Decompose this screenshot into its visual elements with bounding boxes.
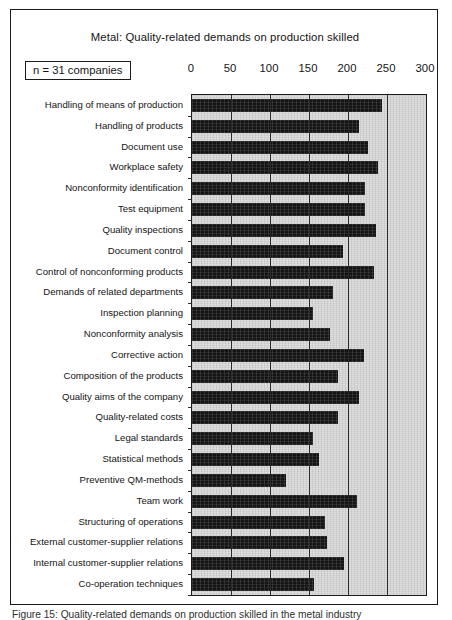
gridline xyxy=(309,95,310,595)
bar xyxy=(192,161,378,174)
category-axis-labels: Handling of means of productionHandling … xyxy=(11,94,187,594)
chart-title: Metal: Quality-related demands on produc… xyxy=(11,31,439,43)
category-label: Preventive QM-methods xyxy=(80,474,183,485)
bar xyxy=(192,349,364,362)
gridline xyxy=(348,95,349,595)
category-label: Nonconformity identification xyxy=(65,182,183,193)
x-axis-tick-label: 200 xyxy=(338,62,357,74)
category-label: Quality inspections xyxy=(102,224,183,235)
category-label: Test equipment xyxy=(118,203,183,214)
category-label: Composition of the products xyxy=(64,370,183,381)
gridline xyxy=(270,95,271,595)
category-label: Legal standards xyxy=(115,432,183,443)
bar xyxy=(192,495,357,508)
figure-frame: Metal: Quality-related demands on produc… xyxy=(10,9,438,605)
bar xyxy=(192,453,319,466)
category-label: Handling of products xyxy=(95,120,183,131)
category-label: Internal customer-supplier relations xyxy=(33,557,183,568)
category-label: Quality aims of the company xyxy=(62,391,183,402)
category-label: Corrective action xyxy=(111,349,183,360)
bar xyxy=(192,411,338,424)
bar xyxy=(192,120,359,133)
plot-area xyxy=(191,94,427,596)
bar xyxy=(192,536,327,549)
category-label: Inspection planning xyxy=(100,307,183,318)
bar xyxy=(192,370,338,383)
category-label: Nonconformity analysis xyxy=(84,328,183,339)
gridline xyxy=(231,95,232,595)
x-axis-tick-label: 150 xyxy=(299,62,318,74)
bar xyxy=(192,266,374,279)
bar xyxy=(192,432,313,445)
bar xyxy=(192,182,365,195)
category-label: Demands of related departments xyxy=(43,286,183,297)
bar xyxy=(192,286,333,299)
x-axis-tick-label: 50 xyxy=(224,62,237,74)
x-axis-tick-label: 100 xyxy=(260,62,279,74)
bar xyxy=(192,391,359,404)
category-label: Workplace safety xyxy=(110,161,183,172)
category-label: External customer-supplier relations xyxy=(30,536,183,547)
bar xyxy=(192,557,344,570)
bar xyxy=(192,203,365,216)
category-label: Team work xyxy=(137,495,183,506)
category-label: Co-operation techniques xyxy=(78,578,183,589)
figure-caption: Figure 15: Quality-related demands on pr… xyxy=(12,609,442,620)
category-label: Statistical methods xyxy=(102,453,183,464)
category-label: Document use xyxy=(121,141,183,152)
category-label: Structuring of operations xyxy=(78,516,183,527)
figure-root: Metal: Quality-related demands on produc… xyxy=(0,0,452,620)
x-axis-tick-label: 250 xyxy=(377,62,396,74)
bar xyxy=(192,245,343,258)
category-label: Quality-related costs xyxy=(96,411,183,422)
bar xyxy=(192,578,314,591)
gridline xyxy=(387,95,388,595)
bar xyxy=(192,99,382,112)
category-label: Document control xyxy=(108,245,183,256)
x-axis-tick-label: 0 xyxy=(188,62,194,74)
bar xyxy=(192,474,286,487)
bar xyxy=(192,516,325,529)
bar xyxy=(192,307,313,320)
category-tick xyxy=(188,595,192,596)
category-label: Control of nonconforming products xyxy=(36,266,183,277)
bar xyxy=(192,141,368,154)
category-label: Handling of means of production xyxy=(45,99,183,110)
x-axis-tick-label: 300 xyxy=(416,62,435,74)
x-axis-tick-labels: 050100150200250300 xyxy=(11,62,439,80)
